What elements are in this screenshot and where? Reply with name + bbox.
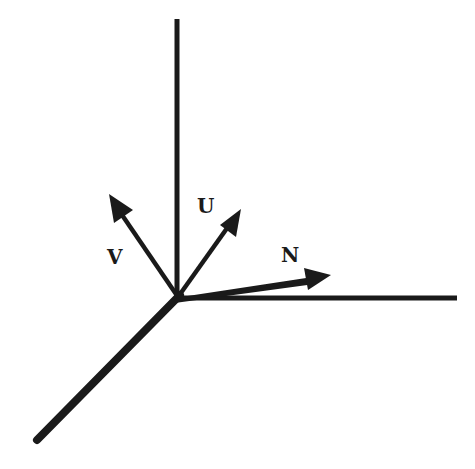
coordinate-frame-diagram: V U N: [0, 0, 475, 469]
label-u: U: [197, 194, 214, 218]
label-v: V: [106, 245, 123, 269]
vector-v-shaft: [120, 212, 178, 297]
vector-u-shaft: [178, 224, 230, 297]
vector-v-arrowhead-icon: [109, 194, 133, 223]
label-n: N: [281, 243, 299, 267]
vector-u: [178, 209, 241, 297]
diagonal-axis: [37, 295, 180, 440]
vector-n-arrowhead-icon: [304, 268, 331, 290]
